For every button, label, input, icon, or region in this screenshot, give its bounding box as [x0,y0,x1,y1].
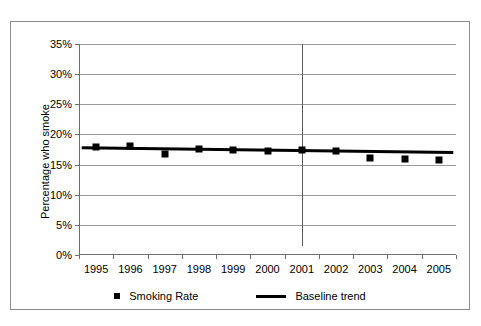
x-tick-label: 2005 [427,263,451,275]
plot-area: 0%5%10%15%20%25%30%35% 19951996199719981… [79,44,456,255]
x-tick-label: 1996 [118,263,142,275]
chart-legend: Smoking Rate Baseline trend [10,283,470,309]
x-tick-label: 1997 [152,263,176,275]
data-point-marker [195,145,202,152]
x-tick-mark [422,255,423,259]
legend-item-smoking-rate: Smoking Rate [114,290,198,302]
y-tick-label: 15% [50,159,72,171]
x-tick-mark [148,255,149,259]
data-point-marker [401,156,408,163]
square-marker-icon [114,293,120,299]
y-tick-label: 5% [56,219,72,231]
x-tick-mark [182,255,183,259]
data-point-marker [333,147,340,154]
chart-screenshot: Percentage who smoke 0%5%10%15%20%25%30%… [0,0,481,326]
y-tick-label: 0% [56,249,72,261]
data-point-marker [367,154,374,161]
x-tick-mark [285,255,286,259]
x-tick-mark [79,255,80,259]
x-tick-label: 2003 [358,263,382,275]
legend-item-baseline-trend: Baseline trend [256,290,365,302]
x-tick-mark [216,255,217,259]
data-point-marker [127,143,134,150]
data-point-marker [161,151,168,158]
legend-label-baseline-trend: Baseline trend [295,290,365,302]
y-tick-label: 25% [50,98,72,110]
y-tick-label: 30% [50,68,72,80]
x-tick-label: 1995 [84,263,108,275]
x-tick-mark [113,255,114,259]
x-tick-mark [456,255,457,259]
x-tick-mark [387,255,388,259]
x-tick-mark [250,255,251,259]
line-marker-icon [256,295,286,298]
y-tick-label: 10% [50,189,72,201]
x-tick-label: 2002 [324,263,348,275]
y-tick-label: 20% [50,128,72,140]
x-tick-label: 1998 [187,263,211,275]
data-point-marker [230,147,237,154]
x-tick-label: 2001 [290,263,314,275]
x-tick-label: 2000 [255,263,279,275]
x-tick-mark [319,255,320,259]
data-point-marker [93,144,100,151]
x-tick-mark [353,255,354,259]
y-tick-label: 35% [50,38,72,50]
legend-label-smoking-rate: Smoking Rate [129,290,198,302]
data-point-marker [264,147,271,154]
data-point-marker [298,146,305,153]
x-tick-label: 2004 [392,263,416,275]
data-point-marker [435,156,442,163]
x-tick-label: 1999 [221,263,245,275]
chart-frame: Percentage who smoke 0%5%10%15%20%25%30%… [10,21,470,310]
